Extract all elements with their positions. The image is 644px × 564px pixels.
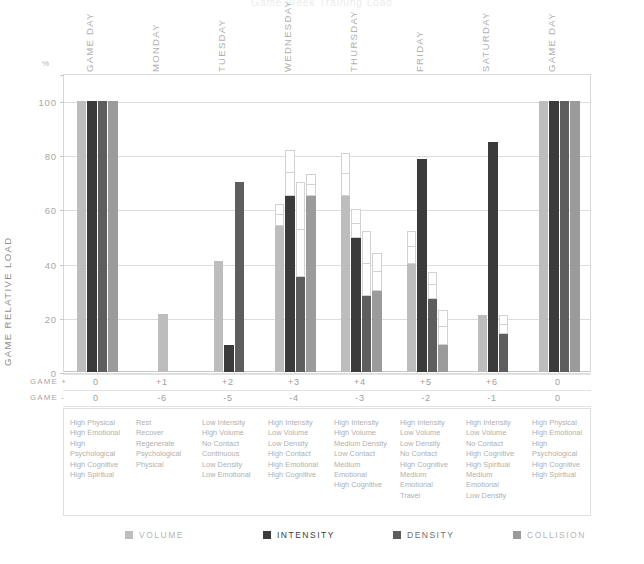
descriptor-item: Low Volume — [400, 428, 458, 438]
day-header-label: MONDAY — [150, 23, 161, 72]
legend-swatch-icon — [263, 531, 271, 539]
day-header-label: WEDNESDAY — [282, 0, 293, 72]
bar-fill — [438, 345, 448, 372]
descriptor-item: Rest — [136, 418, 194, 428]
bar-intensity[interactable] — [417, 159, 427, 372]
descriptor-item: High Spiritual — [532, 470, 590, 480]
descriptor-item: Low Contact — [334, 449, 392, 459]
legend-label: INTENSITY — [277, 530, 335, 540]
bar-ghost-divider — [306, 184, 316, 185]
bar-intensity[interactable] — [87, 101, 97, 372]
bar-volume[interactable] — [407, 231, 417, 372]
day-header-label: TUESDAY — [216, 19, 227, 72]
bar-intensity[interactable] — [488, 142, 498, 372]
bar-intensity[interactable] — [285, 150, 295, 372]
bar-collision[interactable] — [570, 101, 580, 372]
legend-item-volume[interactable]: VOLUME — [125, 530, 184, 540]
bar-volume[interactable] — [77, 101, 87, 372]
bar-fill — [306, 196, 316, 372]
descriptor-column-6: High IntensityLow VolumeNo ContactHigh C… — [466, 418, 524, 501]
descriptor-item: High Psychological — [532, 439, 590, 460]
bar-fill — [488, 142, 498, 372]
y-tick-label-80: 80 — [45, 151, 57, 162]
descriptor-box: High PhysicalHigh EmotionalHigh Psycholo… — [63, 408, 591, 516]
bar-density[interactable] — [296, 182, 306, 372]
game-minus-label: GAME - — [30, 393, 65, 402]
descriptor-item: Low Density — [202, 460, 260, 470]
bar-fill — [499, 334, 509, 372]
bar-volume[interactable] — [341, 153, 351, 372]
bar-density[interactable] — [98, 101, 108, 372]
descriptor-item: Continuous — [202, 449, 260, 459]
bar-ghost-divider — [296, 229, 306, 230]
bar-collision[interactable] — [306, 174, 316, 372]
game-plus-cell-0: 0 — [63, 377, 129, 387]
bar-density[interactable] — [235, 182, 245, 372]
descriptor-item: Low Density — [400, 439, 458, 449]
bar-group-0 — [64, 75, 130, 372]
bar-fill — [417, 159, 427, 372]
y-axis-unit: % — [42, 59, 50, 68]
legend-item-collision[interactable]: COLLISION — [513, 530, 586, 540]
bar-fill — [285, 196, 295, 372]
bar-intensity[interactable] — [549, 101, 559, 372]
bar-fill — [549, 101, 559, 372]
descriptor-column-7: High PhysicalHigh EmotionalHigh Psycholo… — [532, 418, 590, 480]
game-minus-cell-5: -2 — [393, 393, 459, 403]
descriptor-column-0: High PhysicalHigh EmotionalHigh Psycholo… — [70, 418, 128, 480]
bar-ghost-extension — [407, 231, 417, 264]
game-plus-cell-6: +6 — [459, 377, 525, 387]
bar-density[interactable] — [428, 272, 438, 372]
legend-item-density[interactable]: DENSITY — [393, 530, 454, 540]
y-tick-label-60: 60 — [45, 205, 57, 216]
descriptor-item: High Intensity — [334, 418, 392, 428]
bar-intensity[interactable] — [351, 209, 361, 372]
descriptor-item: High Intensity — [400, 418, 458, 428]
legend-swatch-icon — [125, 531, 133, 539]
descriptor-item: Low Volume — [268, 428, 326, 438]
bar-fill — [158, 314, 168, 372]
bar-collision[interactable] — [438, 310, 448, 372]
bar-collision[interactable] — [372, 253, 382, 372]
legend-swatch-icon — [393, 531, 401, 539]
descriptor-item: High Cognitive — [70, 460, 128, 470]
bar-ghost-divider — [285, 172, 295, 173]
descriptor-column-2: Low IntensityHigh VolumeNo ContactContin… — [202, 418, 260, 480]
game-minus-cell-6: -1 — [459, 393, 525, 403]
bar-volume[interactable] — [158, 314, 168, 372]
plot-area: % 020406080100 — [63, 74, 591, 372]
bar-density[interactable] — [499, 315, 509, 372]
bar-fill — [351, 238, 361, 372]
row-separator-bottom — [63, 406, 591, 407]
descriptor-item: High Physical — [532, 418, 590, 428]
legend-item-intensity[interactable]: INTENSITY — [263, 530, 335, 540]
descriptor-item: High Spiritual — [466, 460, 524, 470]
descriptor-item: High Cognitive — [334, 480, 392, 490]
bar-fill — [224, 345, 234, 372]
descriptor-item: High Cognitive — [268, 470, 326, 480]
bar-ghost-extension — [428, 272, 438, 299]
day-header-label: GAME DAY — [546, 12, 557, 72]
bar-density[interactable] — [560, 101, 570, 372]
descriptor-item: High Contact — [268, 449, 326, 459]
bar-fill — [235, 182, 245, 372]
descriptor-item: High Intensity — [268, 418, 326, 428]
bar-volume[interactable] — [214, 261, 224, 372]
y-tick-label-20: 20 — [45, 313, 57, 324]
bar-volume[interactable] — [478, 315, 488, 372]
y-tick-label-100: 100 — [38, 97, 57, 108]
descriptor-item: High Psychological — [70, 439, 128, 460]
bar-fill — [87, 101, 97, 372]
bar-fill — [570, 101, 580, 372]
bar-density[interactable] — [362, 231, 372, 372]
bar-volume[interactable] — [275, 204, 285, 372]
descriptor-column-5: High IntensityLow VolumeLow DensityNo Co… — [400, 418, 458, 501]
bar-volume[interactable] — [539, 101, 549, 372]
bar-ghost-extension — [306, 174, 316, 196]
bar-collision[interactable] — [108, 101, 118, 372]
bar-intensity[interactable] — [224, 345, 234, 372]
descriptor-item: Low Density — [268, 439, 326, 449]
game-minus-row: GAME - 0-6-5-4-3-2-10 — [0, 391, 644, 406]
bar-ghost-extension — [362, 231, 372, 296]
descriptor-item: Recover — [136, 428, 194, 438]
